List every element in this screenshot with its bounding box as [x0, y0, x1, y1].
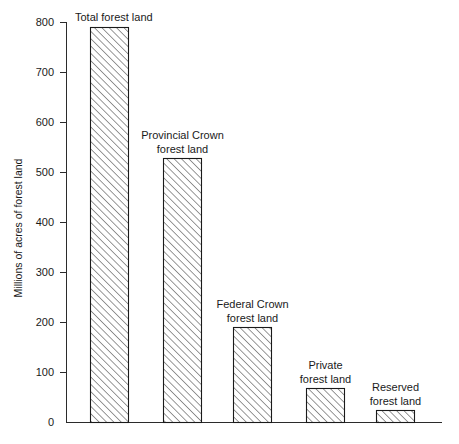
bar-label-provincial-crown-line1: Provincial Crown	[141, 129, 224, 141]
bar-private-forest-land	[307, 389, 345, 423]
y-tick-label-100: 100	[36, 366, 54, 378]
bar-label-reserved-line1: Reserved	[372, 381, 419, 393]
y-tick-label-700: 700	[36, 66, 54, 78]
y-tick-label-800: 800	[36, 16, 54, 28]
bar-label-provincial-crown-line2: forest land	[157, 143, 208, 155]
y-tick-label-500: 500	[36, 166, 54, 178]
bar-label-federal-crown-line1: Federal Crown	[216, 298, 288, 310]
y-axis-title: Millions of acres of forest land	[12, 158, 24, 297]
bar-label-private-line1: Private	[308, 359, 342, 371]
bar-label-total-forest-land: Total forest land	[75, 11, 153, 23]
y-tick-label-400: 400	[36, 216, 54, 228]
chart-canvas: 800 700 600 500 400 300 200 100 0 Millio…	[0, 0, 459, 444]
bar-label-private-line2: forest land	[300, 373, 351, 385]
y-tick-labels: 800 700 600 500 400 300 200 100 0	[36, 16, 54, 428]
bar-label-federal-crown-line2: forest land	[227, 312, 278, 324]
bar-provincial-crown-forest-land	[164, 159, 202, 423]
bars-group	[91, 28, 415, 423]
bar-total-forest-land	[91, 28, 129, 423]
y-tick-label-300: 300	[36, 266, 54, 278]
y-tick-label-600: 600	[36, 116, 54, 128]
y-tick-label-0: 0	[48, 416, 54, 428]
bar-chart-figure: 800 700 600 500 400 300 200 100 0 Millio…	[0, 0, 459, 444]
bar-label-reserved-line2: forest land	[370, 395, 421, 407]
bar-federal-crown-forest-land	[234, 328, 272, 423]
bar-reserved-forest-land	[377, 411, 415, 423]
y-tick-label-200: 200	[36, 316, 54, 328]
